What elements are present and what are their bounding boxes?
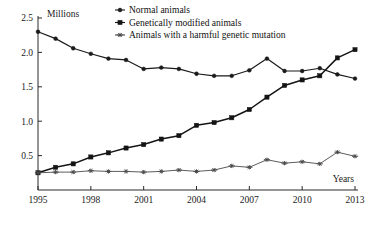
y-tick-label: 0.5 (21, 151, 33, 161)
y-axis-title: Millions (47, 9, 80, 19)
y-tick-label: 2.0 (21, 48, 33, 58)
chart-container: 0.51.01.52.02.5 199519982001200420072010… (0, 0, 374, 226)
data-point-marker (264, 158, 270, 162)
data-point-marker (247, 107, 251, 111)
data-point-marker (71, 162, 75, 166)
data-point-marker (71, 46, 75, 50)
data-point-marker (318, 66, 322, 70)
data-point-marker (299, 160, 305, 164)
series-line (38, 50, 355, 173)
chart-legend: Normal animalsGenetically modified anima… (115, 5, 286, 40)
data-point-marker (230, 116, 234, 120)
data-point-marker (352, 154, 358, 158)
data-point-marker (142, 67, 146, 71)
x-tick-label: 2004 (187, 195, 206, 205)
data-point-marker (195, 72, 199, 76)
data-point-marker (177, 67, 181, 71)
x-axis-title: Years (333, 174, 355, 184)
x-tick-label: 2013 (346, 195, 365, 205)
x-tick-label: 2010 (293, 195, 312, 205)
data-point-marker (105, 169, 111, 173)
data-point-marker (212, 120, 216, 124)
chart-series (36, 48, 357, 175)
data-point-marker (282, 83, 286, 87)
data-point-marker (283, 69, 287, 73)
legend-label: Normal animals (129, 5, 190, 15)
data-point-marker (159, 137, 163, 141)
data-point-marker (353, 77, 357, 81)
data-point-marker (89, 52, 93, 56)
data-point-marker (335, 73, 339, 77)
data-point-marker (36, 30, 40, 34)
data-point-marker (318, 74, 322, 78)
y-tick-label: 1.5 (21, 82, 33, 92)
data-point-marker (89, 155, 93, 159)
data-point-marker (53, 170, 59, 174)
line-chart: 0.51.01.52.02.5 199519982001200420072010… (0, 0, 374, 226)
chart-series-group (35, 30, 358, 175)
data-point-marker (106, 151, 110, 155)
x-axis-ticks: 1995199820012004200720102013 (29, 186, 365, 205)
data-point-marker (107, 57, 111, 61)
legend-label: Animals with a harmful genetic mutation (129, 30, 286, 40)
x-tick-label: 2001 (134, 195, 153, 205)
data-point-marker (177, 134, 181, 138)
data-point-marker (88, 169, 94, 173)
data-point-marker (193, 169, 199, 173)
legend-label: Genetically modified animals (129, 18, 242, 28)
data-point-marker (230, 74, 234, 78)
data-point-marker (117, 33, 123, 37)
y-axis-ticks: 0.51.01.52.02.5 (21, 13, 42, 161)
data-point-marker (281, 161, 287, 165)
data-point-marker (141, 170, 147, 174)
data-point-marker (158, 169, 164, 173)
chart-axes (38, 16, 358, 190)
data-point-marker (265, 57, 269, 61)
data-point-marker (335, 56, 339, 60)
y-tick-label: 1.0 (21, 117, 33, 127)
data-point-marker (300, 69, 304, 73)
data-point-marker (118, 8, 122, 12)
chart-series (35, 150, 358, 175)
x-tick-label: 2007 (240, 195, 259, 205)
data-point-marker (246, 165, 252, 169)
data-point-marker (247, 68, 251, 72)
data-point-marker (142, 142, 146, 146)
data-point-marker (353, 48, 357, 52)
data-point-marker (300, 78, 304, 82)
x-tick-label: 1998 (81, 195, 100, 205)
data-point-marker (176, 168, 182, 172)
y-tick-label: 2.5 (21, 13, 33, 23)
data-point-marker (54, 165, 58, 169)
data-point-marker (229, 164, 235, 168)
data-point-marker (118, 20, 122, 24)
data-point-marker (265, 95, 269, 99)
data-point-marker (194, 123, 198, 127)
data-point-marker (211, 168, 217, 172)
data-point-marker (70, 170, 76, 174)
data-point-marker (212, 74, 216, 78)
data-point-marker (54, 37, 58, 41)
data-point-marker (124, 58, 128, 62)
data-point-marker (124, 146, 128, 150)
data-point-marker (123, 169, 129, 173)
data-point-marker (159, 66, 163, 70)
x-tick-label: 1995 (29, 195, 48, 205)
